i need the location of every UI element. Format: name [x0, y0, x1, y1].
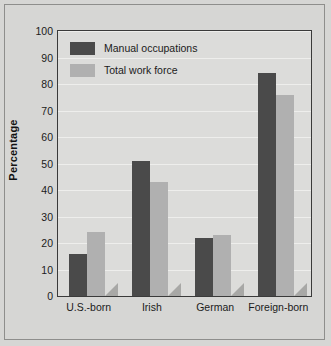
y-axis-tick-label: 20: [0, 238, 53, 249]
legend-swatch: [70, 42, 95, 55]
bar: [87, 232, 105, 296]
bar: [258, 73, 276, 296]
y-axis-tick-label: 80: [0, 79, 53, 90]
y-axis-tick-label: 10: [0, 264, 53, 275]
y-axis-title: Percentage: [7, 105, 19, 195]
bar: [195, 238, 213, 296]
legend-item: Manual occupations: [70, 39, 197, 58]
x-axis-tick-label: Foreign-born: [248, 302, 308, 313]
bar-base-shadow: [231, 283, 244, 296]
y-axis-tick-label: 30: [0, 211, 53, 222]
legend-label: Manual occupations: [104, 43, 197, 54]
bar: [132, 161, 150, 296]
gridline: [58, 296, 311, 297]
x-axis-tick-label: Irish: [142, 302, 162, 313]
y-axis-tick-label: 100: [0, 26, 53, 37]
x-axis: U.S.-bornIrishGermanForeign-born: [57, 302, 312, 322]
legend-item: Total work force: [70, 61, 197, 80]
bar: [213, 235, 231, 296]
legend-label: Total work force: [104, 65, 178, 76]
bar: [69, 254, 87, 296]
bar-base-shadow: [105, 283, 118, 296]
plot-inner: Manual occupationsTotal work force: [58, 31, 311, 296]
legend-swatch: [70, 64, 95, 77]
x-axis-tick-label: German: [196, 302, 234, 313]
bar-base-shadow: [168, 283, 181, 296]
y-axis-tick-label: 0: [0, 291, 53, 302]
y-axis-tick-label: 90: [0, 52, 53, 63]
x-axis-tick-label: U.S.-born: [66, 302, 111, 313]
plot-area: Manual occupationsTotal work force: [57, 30, 312, 297]
bar: [276, 95, 294, 296]
chart-figure: 0102030405060708090100 Percentage Manual…: [0, 0, 331, 346]
chart-legend: Manual occupationsTotal work force: [70, 39, 197, 83]
bar: [150, 182, 168, 296]
bar-base-shadow: [294, 283, 307, 296]
